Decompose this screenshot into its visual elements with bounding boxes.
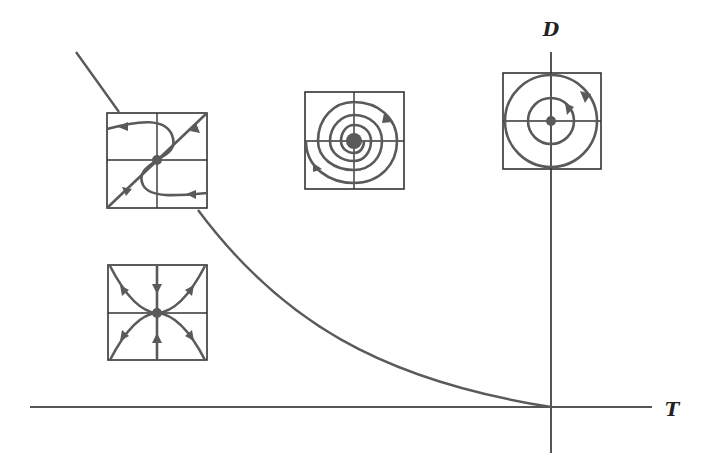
arrow-icon [152,333,162,343]
equilibrium-dot [346,133,362,149]
arrow-icon [186,190,196,199]
arrow-icon [118,122,128,131]
equilibrium-dot [152,155,162,165]
parabola-boundary-curve [76,52,551,407]
d-axis-label: D [542,18,560,40]
axes: D T [30,18,681,453]
arrow-icon [152,284,162,294]
phase-portrait-node-sink [108,265,207,360]
trace-determinant-diagram: D T [0,0,714,470]
phase-portrait-degenerate-node [107,113,207,208]
t-axis-label: T [665,398,681,420]
equilibrium-dot [152,308,162,318]
equilibrium-dot [546,116,556,126]
phase-portrait-spiral-sink [305,92,404,189]
